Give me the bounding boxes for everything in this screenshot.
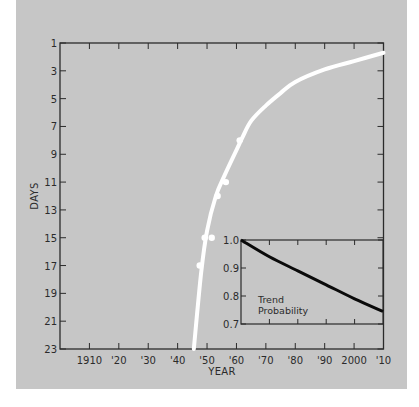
y-tick-label: 15 bbox=[44, 233, 57, 244]
inset-y-tick-label: 0.7 bbox=[223, 319, 239, 330]
x-tick-label: '10 bbox=[376, 355, 391, 366]
y-tick-label: 21 bbox=[44, 316, 57, 327]
x-tick-label: '30 bbox=[140, 355, 155, 366]
data-point bbox=[214, 193, 220, 199]
y-tick-label: 7 bbox=[51, 121, 57, 132]
y-tick-label: 23 bbox=[44, 344, 57, 355]
y-tick-label: 17 bbox=[44, 261, 57, 272]
inset-y-tick-label: 0.8 bbox=[223, 291, 239, 302]
y-axis-title: DAYS bbox=[29, 182, 40, 209]
chart: 1357911131517192123 1910'20'30'40'50'60'… bbox=[0, 0, 419, 407]
inset-label-line2: Probability bbox=[258, 305, 309, 316]
x-tick-labels: 1910'20'30'40'50'60'70'80'902000'10 bbox=[77, 355, 392, 366]
x-tick-label: '50 bbox=[199, 355, 214, 366]
y-tick-labels: 1357911131517192123 bbox=[44, 38, 57, 355]
inset-y-tick-label: 1.0 bbox=[223, 235, 239, 246]
y-tick-label: 9 bbox=[51, 149, 57, 160]
data-point bbox=[223, 179, 229, 185]
inset-label-line1: Trend bbox=[257, 294, 284, 305]
inset-chart: 1.00.90.80.7 Trend Probability bbox=[223, 235, 383, 330]
x-tick-label: '90 bbox=[317, 355, 332, 366]
x-tick-label: '80 bbox=[288, 355, 303, 366]
y-tick-label: 3 bbox=[51, 66, 57, 77]
x-tick-label: '60 bbox=[229, 355, 244, 366]
x-tick-label: '70 bbox=[258, 355, 273, 366]
x-axis-title: YEAR bbox=[207, 366, 235, 377]
y-tick-label: 13 bbox=[44, 205, 57, 216]
inset-y-tick-labels: 1.00.90.80.7 bbox=[223, 235, 239, 330]
data-point bbox=[209, 235, 215, 241]
x-tick-label: 1910 bbox=[77, 355, 102, 366]
x-tick-label: '40 bbox=[170, 355, 185, 366]
data-point bbox=[236, 137, 242, 143]
y-tick-label: 19 bbox=[44, 288, 57, 299]
data-point bbox=[196, 262, 202, 268]
inset-y-tick-label: 0.9 bbox=[223, 263, 239, 274]
x-tick-label: 2000 bbox=[341, 355, 366, 366]
y-tick-label: 11 bbox=[44, 177, 57, 188]
x-tick-label: '20 bbox=[111, 355, 126, 366]
y-tick-label: 5 bbox=[51, 94, 57, 105]
y-tick-label: 1 bbox=[51, 38, 57, 49]
data-point bbox=[201, 235, 207, 241]
